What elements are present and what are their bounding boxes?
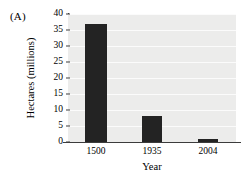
- y-tick-mark: [66, 126, 70, 127]
- y-tick-label: 10: [54, 105, 64, 115]
- bar-1500: [85, 24, 107, 142]
- figure-panel-a: (A) Hectares (millions) 0510152025303540…: [0, 0, 251, 184]
- y-tick-mark: [66, 78, 70, 79]
- x-axis-tick-labels: 150019352004: [68, 146, 236, 160]
- y-tick-label: 5: [58, 121, 63, 131]
- y-tick-mark: [66, 110, 70, 111]
- bar-2004: [198, 139, 218, 142]
- y-tick-mark: [66, 30, 70, 31]
- y-axis-title: Hectares (millions): [25, 38, 37, 119]
- y-tick-mark: [66, 94, 70, 95]
- x-axis-line: [63, 142, 241, 143]
- y-tick-mark: [66, 14, 70, 15]
- y-tick-mark: [66, 46, 70, 47]
- y-axis-title-container: Hectares (millions): [24, 14, 38, 142]
- y-tick-label: 20: [54, 73, 64, 83]
- x-tick-label: 1500: [87, 146, 106, 157]
- y-axis-tick-labels: 0510152025303540: [40, 14, 66, 142]
- y-tick-label: 40: [54, 9, 64, 19]
- y-tick-label: 30: [54, 41, 64, 51]
- x-axis-title: Year: [68, 161, 236, 173]
- y-tick-label: 25: [54, 57, 64, 67]
- y-tick-mark: [66, 142, 70, 143]
- x-tick-label: 2004: [199, 146, 218, 157]
- bar-1935: [142, 116, 162, 142]
- y-tick-label: 15: [54, 89, 64, 99]
- x-tick-label: 1935: [143, 146, 162, 157]
- y-tick-mark: [66, 62, 70, 63]
- gridline: [68, 14, 236, 15]
- y-tick-label: 35: [54, 25, 64, 35]
- plot-area: [68, 14, 236, 142]
